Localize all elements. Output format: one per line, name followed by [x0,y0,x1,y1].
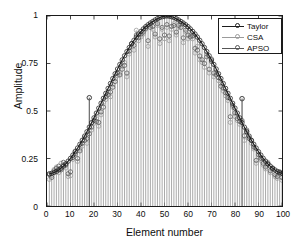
legend-swatch [222,32,244,42]
figure-container: 00.250.50.751 Amplitude 0102030405060708… [0,0,302,249]
x-tick-label: 40 [136,210,145,219]
y-tick-label: 0.25 [21,155,38,163]
x-tick-label: 20 [89,210,98,219]
y-tick-label: 0.5 [26,107,38,115]
legend-line [222,26,244,27]
x-tick-label: 60 [183,210,192,219]
legend-item-apso[interactable]: APSO [219,43,281,53]
y-tick-label: 1 [33,11,38,19]
legend-marker-icon [235,23,240,28]
x-tick-label: 30 [112,210,121,219]
x-tick-label: 50 [160,210,169,219]
legend-label: CSA [247,33,263,42]
legend-item-taylor[interactable]: Taylor [219,21,281,31]
legend-marker-icon [235,45,240,50]
legend-swatch [222,21,244,31]
x-tick-label: 100 [276,210,290,219]
chart-legend: TaylorCSAAPSO [218,18,282,54]
legend-label: Taylor [247,22,268,31]
x-axis-label: Element number [46,226,283,238]
x-tick-label: 70 [207,210,216,219]
x-axis-ticklabels: 0102030405060708090100 [0,210,302,224]
legend-swatch [222,43,244,53]
x-tick-label: 80 [231,210,240,219]
legend-label: APSO [247,44,269,53]
legend-line [222,48,244,49]
x-tick-label: 0 [44,210,49,219]
legend-item-csa[interactable]: CSA [219,32,281,42]
legend-marker-icon [235,34,240,39]
legend-line [222,37,244,38]
y-axis-label: Amplitude [12,41,24,131]
x-tick-label: 90 [255,210,264,219]
x-tick-label: 10 [65,210,74,219]
